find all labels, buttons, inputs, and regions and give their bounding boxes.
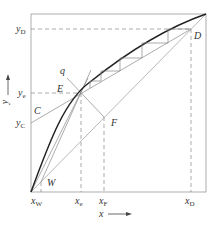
diagram-canvas (0, 0, 217, 226)
point-label-c: C (34, 106, 41, 116)
x-tick-d: xD (185, 196, 195, 208)
x-tick-e: xe (75, 196, 83, 208)
x-tick-w: xW (31, 196, 42, 208)
point-label-e: E (57, 84, 63, 94)
auxiliary-line (31, 78, 88, 192)
x-tick-f: xF (99, 196, 107, 208)
y-tick-e: ye (18, 88, 26, 100)
point-label-f: F (111, 118, 117, 128)
y-tick-c: yC (16, 118, 25, 130)
x-arrowhead-icon (126, 212, 132, 216)
diagonal-line (31, 14, 206, 192)
y-arrowhead-icon (6, 74, 10, 80)
point-label-q: q (60, 66, 65, 76)
mccabe-thiele-diagram: D E F C W q yD ye yC xW xe xF xD x y (0, 0, 217, 226)
y-axis-label: y (0, 100, 10, 104)
point-label-w: W (47, 178, 55, 188)
y-tick-d: yD (16, 24, 26, 36)
x-axis-label: x (99, 209, 103, 219)
point-label-d: D (194, 31, 201, 41)
